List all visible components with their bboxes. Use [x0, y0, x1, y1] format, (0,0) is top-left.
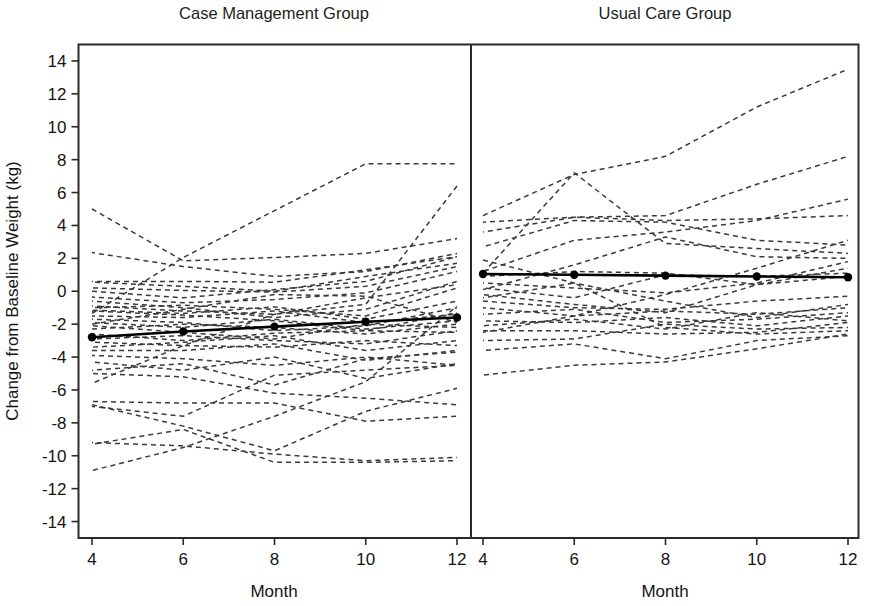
- group-mean-marker: [453, 313, 461, 321]
- x-axis-title-left: Month: [250, 582, 297, 601]
- y-tick-label: 4: [57, 216, 66, 235]
- group-mean-marker: [661, 271, 669, 279]
- group-mean-marker: [270, 322, 278, 330]
- x-tick-label: 10: [747, 550, 766, 569]
- y-tick-label: 10: [48, 118, 67, 137]
- group-mean-marker: [844, 273, 852, 281]
- y-tick-label: -10: [42, 447, 67, 466]
- group-mean-marker: [570, 271, 578, 279]
- x-tick-label: 8: [661, 550, 670, 569]
- group-mean-marker: [753, 272, 761, 280]
- y-tick-label: -14: [42, 513, 67, 532]
- group-mean-marker: [362, 317, 370, 325]
- y-tick-label: 12: [48, 85, 67, 104]
- x-tick-label: 4: [478, 550, 487, 569]
- group-mean-marker: [179, 327, 187, 335]
- y-axis-title: Change from Baseline Weight (kg): [3, 161, 22, 421]
- y-tick-label: 2: [57, 249, 66, 268]
- x-tick-label: 10: [356, 550, 375, 569]
- x-tick-label: 8: [270, 550, 279, 569]
- chart-figure: Case Management Group Usual Care Group C…: [0, 0, 869, 606]
- y-tick-label: 14: [48, 52, 67, 71]
- x-tick-label: 12: [839, 550, 858, 569]
- group-mean-marker: [88, 333, 96, 341]
- y-tick-label: -6: [51, 381, 66, 400]
- x-axis-title-right: Month: [641, 582, 688, 601]
- y-tick-label: -4: [51, 348, 66, 367]
- y-tick-label: -8: [51, 414, 66, 433]
- group-mean-marker: [479, 270, 487, 278]
- y-tick-label: -2: [51, 315, 66, 334]
- y-tick-label: 0: [57, 282, 66, 301]
- y-tick-label: -12: [42, 480, 67, 499]
- panel-title-usual-care: Usual Care Group: [599, 4, 732, 22]
- panel-title-case-management: Case Management Group: [179, 4, 369, 22]
- y-tick-label: 6: [57, 184, 66, 203]
- x-tick-label: 6: [570, 550, 579, 569]
- spaghetti-plot-svg: Case Management Group Usual Care Group C…: [0, 0, 869, 606]
- x-tick-label: 4: [87, 550, 96, 569]
- x-tick-label: 12: [448, 550, 467, 569]
- x-tick-label: 6: [179, 550, 188, 569]
- y-tick-label: 8: [57, 151, 66, 170]
